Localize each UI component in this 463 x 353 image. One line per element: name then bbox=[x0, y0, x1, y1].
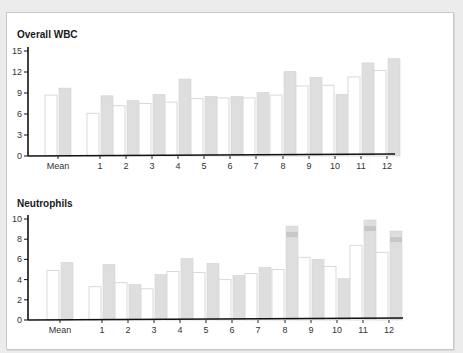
bar-grey bbox=[312, 259, 324, 320]
x-tick-label: 1 bbox=[97, 161, 102, 171]
bar-white bbox=[139, 104, 151, 157]
bar-grey bbox=[153, 94, 165, 156]
bar-white bbox=[350, 245, 362, 320]
bar-white bbox=[296, 86, 308, 156]
bar-grey bbox=[181, 258, 193, 320]
bar-white bbox=[324, 266, 336, 320]
x-tick-label: 7 bbox=[255, 325, 260, 335]
x-tick-label: Mean bbox=[49, 325, 72, 335]
bar-grey bbox=[257, 92, 269, 156]
bar-grey bbox=[362, 63, 374, 156]
bar-grey bbox=[179, 79, 191, 156]
bar-white bbox=[193, 273, 205, 320]
y-tick-label: 10 bbox=[12, 214, 22, 224]
bar-chart-neutrophils: Mean1234567891011120246810 bbox=[7, 183, 453, 349]
bar-white bbox=[115, 283, 127, 320]
bar-grey bbox=[129, 285, 141, 320]
x-tick-label: 2 bbox=[123, 161, 128, 171]
x-tick-label: 11 bbox=[356, 161, 365, 171]
bar-grey bbox=[364, 220, 376, 320]
x-tick-label: 3 bbox=[149, 161, 154, 171]
y-tick-label: 0 bbox=[17, 315, 22, 325]
bar-white bbox=[89, 287, 101, 320]
bar-grey bbox=[205, 97, 217, 157]
bar-grey bbox=[390, 231, 402, 320]
bar-grey bbox=[286, 226, 298, 320]
bar-grey bbox=[336, 94, 348, 156]
bar-grey bbox=[388, 59, 400, 156]
bar-white bbox=[348, 77, 360, 156]
x-tick-label: 10 bbox=[330, 161, 340, 171]
x-tick-label: 1 bbox=[99, 325, 104, 335]
bar-white bbox=[191, 99, 203, 156]
y-tick-label: 2 bbox=[17, 295, 22, 305]
bar-grey bbox=[59, 88, 71, 156]
x-tick-label: 9 bbox=[306, 161, 311, 171]
x-tick-label: 4 bbox=[177, 325, 182, 335]
bar-highlight-band bbox=[364, 226, 376, 231]
bar-white bbox=[113, 106, 125, 156]
bar-white bbox=[270, 95, 282, 156]
bar-white bbox=[167, 272, 179, 320]
y-tick-label: 6 bbox=[17, 254, 22, 264]
bar-grey bbox=[61, 262, 73, 320]
y-tick-label: 6 bbox=[17, 109, 22, 119]
y-tick-label: 4 bbox=[17, 275, 22, 285]
bar-white bbox=[45, 95, 57, 156]
bar-white bbox=[376, 252, 388, 320]
y-tick-label: 3 bbox=[17, 130, 22, 140]
bar-white bbox=[374, 71, 386, 156]
bar-grey bbox=[207, 263, 219, 320]
x-tick-label: 2 bbox=[125, 325, 130, 335]
bar-grey bbox=[231, 97, 243, 157]
panel-neutrophils: Neutrophils Mean1234567891011120246810 bbox=[7, 183, 453, 349]
y-tick-label: 9 bbox=[17, 88, 22, 98]
bar-highlight-band bbox=[390, 237, 402, 242]
bar-white bbox=[47, 271, 59, 320]
bar-white bbox=[245, 274, 257, 320]
bar-grey bbox=[127, 101, 139, 156]
x-tick-label: 5 bbox=[203, 325, 208, 335]
bar-white bbox=[322, 85, 334, 156]
x-tick-label: 3 bbox=[151, 325, 156, 335]
y-tick-label: 8 bbox=[17, 234, 22, 244]
bar-white bbox=[165, 102, 177, 156]
bar-white bbox=[243, 98, 255, 156]
bar-white bbox=[272, 270, 284, 321]
bar-highlight-band bbox=[286, 232, 298, 237]
y-tick-label: 12 bbox=[12, 67, 22, 77]
x-tick-label: 11 bbox=[358, 325, 367, 335]
panel-overall-wbc: Overall WBC Mean12345678910111203691215 bbox=[7, 13, 453, 183]
bar-white bbox=[298, 257, 310, 320]
bar-grey bbox=[233, 276, 245, 320]
x-tick-label: Mean bbox=[47, 161, 70, 171]
x-tick-label: 7 bbox=[253, 161, 258, 171]
x-tick-label: 9 bbox=[308, 325, 313, 335]
y-tick-label: 0 bbox=[17, 151, 22, 161]
bar-grey bbox=[310, 78, 322, 156]
bar-grey bbox=[259, 267, 271, 320]
x-tick-label: 12 bbox=[382, 161, 392, 171]
x-tick-label: 10 bbox=[332, 325, 342, 335]
chart-frame: Overall WBC Mean12345678910111203691215 … bbox=[6, 12, 454, 350]
x-tick-label: 4 bbox=[175, 161, 180, 171]
y-tick-label: 15 bbox=[12, 46, 22, 56]
x-tick-label: 6 bbox=[227, 161, 232, 171]
bar-grey bbox=[155, 275, 167, 320]
bar-chart-overall-wbc: Mean12345678910111203691215 bbox=[7, 13, 453, 183]
x-tick-label: 8 bbox=[280, 161, 285, 171]
x-tick-label: 8 bbox=[282, 325, 287, 335]
bar-white bbox=[87, 113, 99, 156]
bar-grey bbox=[101, 96, 113, 156]
x-tick-label: 12 bbox=[384, 325, 394, 335]
x-tick-label: 5 bbox=[201, 161, 206, 171]
bar-grey bbox=[103, 264, 115, 320]
bar-white bbox=[141, 289, 153, 320]
bar-white bbox=[219, 280, 231, 320]
bar-grey bbox=[338, 279, 350, 320]
bar-white bbox=[217, 98, 229, 156]
bar-grey bbox=[284, 71, 296, 156]
x-tick-label: 6 bbox=[229, 325, 234, 335]
